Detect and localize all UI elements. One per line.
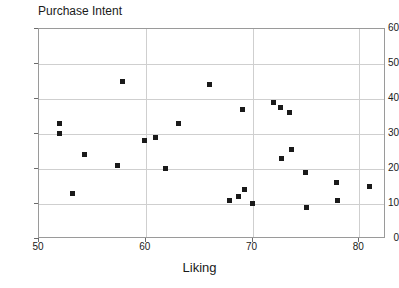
gridline-horizontal xyxy=(39,169,384,170)
y-axis-tick-mark xyxy=(34,133,38,134)
data-point xyxy=(242,187,247,192)
data-point xyxy=(115,163,120,168)
gridline-vertical xyxy=(146,29,147,237)
data-point xyxy=(367,184,372,189)
data-point xyxy=(82,152,87,157)
x-axis-tick-mark xyxy=(145,238,146,242)
data-point xyxy=(207,82,212,87)
x-axis-tick-mark xyxy=(358,238,359,242)
data-point xyxy=(153,135,158,140)
y-axis-tick-mark xyxy=(34,168,38,169)
x-axis-tick-mark xyxy=(252,238,253,242)
data-point xyxy=(57,121,62,126)
gridline-horizontal xyxy=(39,134,384,135)
data-point xyxy=(289,147,294,152)
data-point xyxy=(240,107,245,112)
y-axis-tick-label: 60 xyxy=(367,23,399,33)
gridline-horizontal xyxy=(39,64,384,65)
data-point xyxy=(334,180,339,185)
data-point xyxy=(279,156,284,161)
x-axis-tick-mark xyxy=(38,238,39,242)
x-axis-tick-label: 70 xyxy=(240,242,264,252)
data-point xyxy=(120,79,125,84)
chart-title: Purchase Intent xyxy=(38,4,122,18)
data-point xyxy=(227,198,232,203)
data-point xyxy=(142,138,147,143)
gridline-horizontal xyxy=(39,99,384,100)
gridline-vertical xyxy=(359,29,360,237)
x-axis-tick-label: 50 xyxy=(26,242,50,252)
data-point xyxy=(303,170,308,175)
data-point xyxy=(271,100,276,105)
gridline-horizontal xyxy=(39,204,384,205)
y-axis-tick-label: 20 xyxy=(367,163,399,173)
y-axis-tick-label: 50 xyxy=(367,58,399,68)
y-axis-tick-mark xyxy=(34,63,38,64)
data-point xyxy=(335,198,340,203)
data-point xyxy=(304,205,309,210)
x-axis-label: Liking xyxy=(0,260,399,275)
y-axis-tick-mark xyxy=(34,203,38,204)
data-point xyxy=(236,194,241,199)
y-axis-tick-label: 10 xyxy=(367,198,399,208)
data-point xyxy=(163,166,168,171)
plot-area xyxy=(38,28,385,238)
y-axis-tick-label: 0 xyxy=(367,233,399,243)
x-axis-tick-label: 80 xyxy=(346,242,370,252)
x-axis-tick-label: 60 xyxy=(133,242,157,252)
data-point xyxy=(70,191,75,196)
y-axis-tick-mark xyxy=(34,98,38,99)
data-point xyxy=(278,105,283,110)
data-point xyxy=(176,121,181,126)
data-point xyxy=(287,110,292,115)
data-point xyxy=(250,201,255,206)
data-point xyxy=(57,131,62,136)
y-axis-tick-mark xyxy=(34,28,38,29)
y-axis-tick-label: 30 xyxy=(367,128,399,138)
scatter-chart: Purchase Intent 010203040506050607080 Li… xyxy=(0,0,399,288)
y-axis-tick-label: 40 xyxy=(367,93,399,103)
